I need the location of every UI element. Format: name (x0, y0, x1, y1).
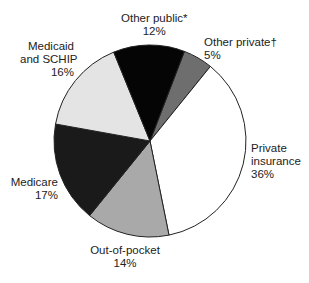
label-medicare: Medicare 17% (10, 176, 58, 202)
label-value: 17% (10, 189, 58, 202)
label-value: 12% (121, 25, 187, 38)
label-medicaid-schip: Medicaid and SCHIP 16% (20, 40, 74, 79)
label-value: 5% (204, 49, 277, 62)
label-text: Private (251, 142, 301, 155)
label-other-private: Other private† 5% (204, 36, 277, 62)
label-text: Other public* (121, 12, 187, 25)
label-text: Medicare (10, 176, 58, 189)
label-text: insurance (251, 155, 301, 168)
label-other-public: Other public* 12% (121, 12, 187, 38)
label-text: and SCHIP (20, 53, 74, 66)
label-value: 16% (20, 66, 74, 79)
label-text: Out-of-pocket (90, 244, 160, 257)
label-out-of-pocket: Out-of-pocket 14% (90, 244, 160, 270)
label-text: Other private† (204, 36, 277, 49)
label-private-insurance: Private insurance 36% (251, 142, 301, 181)
label-value: 14% (90, 257, 160, 270)
label-text: Medicaid (20, 40, 74, 53)
label-value: 36% (251, 168, 301, 181)
